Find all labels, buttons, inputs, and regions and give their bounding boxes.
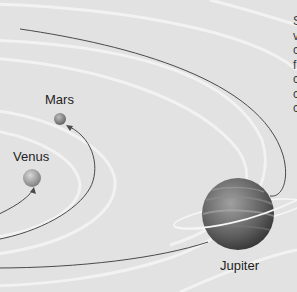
side-text-line: c: [293, 72, 297, 87]
venus-orbit: [0, 190, 33, 216]
side-text-line: c: [293, 101, 297, 116]
orbit-artwork: [0, 0, 297, 292]
venus-label: Venus: [13, 150, 49, 163]
mars-label: Mars: [45, 93, 74, 106]
side-text-line: c: [293, 87, 297, 102]
solar-system-diagram: Mars Venus Jupiter S v c f c c c: [0, 0, 297, 292]
side-text-line: c: [293, 43, 297, 58]
cropped-side-text: S v c f c c c: [293, 14, 297, 116]
venus-planet: [23, 169, 41, 187]
side-text-line: v: [293, 29, 297, 44]
side-text-line: S: [293, 14, 297, 29]
mars-planet: [54, 113, 66, 125]
orbit-bands: [0, 0, 297, 292]
side-text-line: f: [293, 58, 297, 73]
jupiter-label: Jupiter: [220, 259, 259, 272]
